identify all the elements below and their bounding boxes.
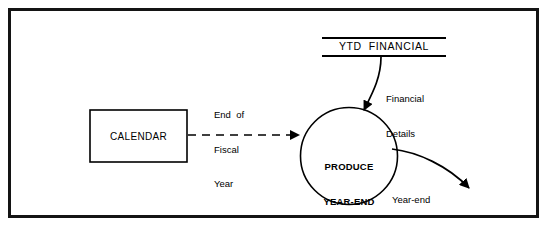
end-of-fiscal-year-label: End of Fiscal Year	[214, 86, 244, 213]
process-label-line-3: REPORT	[301, 230, 397, 231]
diagram-vector-layer	[0, 0, 550, 231]
end-of-fiscal-year-label-line-1: End of	[214, 109, 244, 121]
financial-details-label-line-1: Financial	[386, 93, 424, 105]
produce-year-end-report-label: PRODUCE YEAR-END REPORT	[301, 138, 397, 231]
year-end-report-label: Year-end Report	[392, 171, 430, 231]
year-end-report-label-line-1: Year-end	[392, 194, 430, 206]
end-of-fiscal-year-label-line-2: Fiscal	[214, 144, 244, 156]
financial-details-label-line-2: Details	[386, 128, 424, 140]
financial-details-arrow	[364, 57, 381, 110]
calendar-entity-label: CALENDAR	[90, 131, 187, 142]
ytd-financial-store-label: YTD FINANCIAL	[322, 41, 446, 52]
diagram-canvas: CALENDAR YTD FINANCIAL PRODUCE YEAR-END …	[0, 0, 550, 231]
financial-details-label: Financial Details	[386, 70, 424, 162]
process-label-line-2: YEAR-END	[301, 196, 397, 208]
end-of-fiscal-year-label-line-3: Year	[214, 178, 244, 190]
process-label-line-1: PRODUCE	[301, 161, 397, 173]
year-end-report-label-line-2: Report	[392, 229, 430, 232]
